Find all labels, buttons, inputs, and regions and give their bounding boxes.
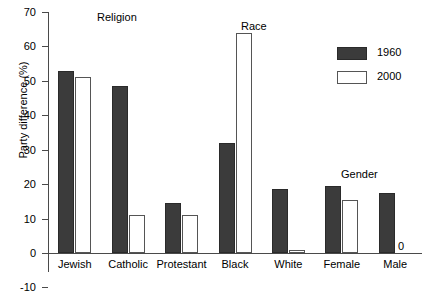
y-tick-label: -10 — [20, 282, 36, 293]
bar-male-1960 — [379, 193, 395, 253]
legend-swatch-2000 — [337, 71, 367, 84]
annotation-religion: Religion — [97, 11, 137, 23]
legend-label-1960: 1960 — [377, 46, 401, 58]
y-tick-label: 60 — [24, 41, 36, 52]
bar-catholic-2000 — [129, 215, 145, 253]
x-tick-label-catholic: Catholic — [101, 258, 154, 270]
x-tick-label-black: Black — [208, 258, 261, 270]
x-tick-label-jewish: Jewish — [48, 258, 101, 270]
bar-black-1960 — [219, 143, 235, 253]
bar-white-1960 — [272, 189, 288, 253]
y-tick-mark — [42, 287, 48, 288]
bar-jewish-2000 — [75, 77, 91, 253]
bar-female-1960 — [325, 186, 341, 253]
x-tick-label-male: Male — [369, 258, 422, 270]
bar-white-2000 — [289, 250, 305, 253]
legend-swatch-1960 — [337, 47, 367, 60]
y-tick-label: 70 — [24, 7, 36, 18]
y-tick-label: 0 — [30, 248, 36, 259]
bar-protestant-1960 — [165, 203, 181, 253]
y-tick-label: 10 — [24, 214, 36, 225]
bar-female-2000 — [342, 200, 358, 253]
bar-jewish-1960 — [58, 71, 74, 253]
annotation-race: Race — [241, 20, 267, 32]
bar-protestant-2000 — [182, 215, 198, 253]
bar-catholic-1960 — [112, 86, 128, 253]
y-tick-label: 40 — [24, 110, 36, 121]
y-tick-label: 30 — [24, 145, 36, 156]
bar-chart: Party difference (%) -10010203040506070 … — [0, 0, 428, 300]
y-tick-label: 50 — [24, 76, 36, 87]
annotation-male-2000-zero: 0 — [398, 240, 404, 252]
y-tick-label: 20 — [24, 179, 36, 190]
x-tick-label-white: White — [262, 258, 315, 270]
x-tick-label-protestant: Protestant — [155, 258, 208, 270]
legend-label-2000: 2000 — [377, 70, 401, 82]
annotation-gender: Gender — [341, 168, 378, 180]
bar-black-2000 — [236, 33, 252, 253]
x-tick-label-female: Female — [315, 258, 368, 270]
